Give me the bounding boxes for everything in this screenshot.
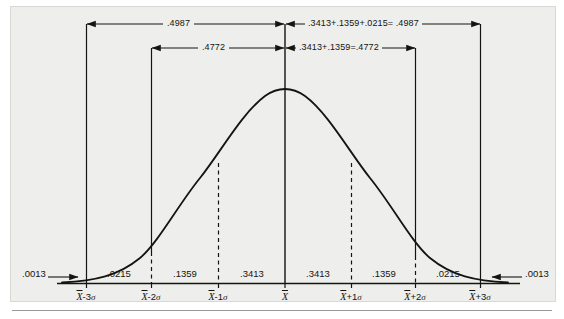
sigma-glyph: σ (91, 292, 95, 302)
axis-label-minus3sigma: X-3σ (76, 291, 95, 302)
dim-label-right-inner: .3413+.1359=.4772 (296, 42, 382, 52)
offset-text: +1 (346, 291, 357, 302)
area-label-far-right: .0013 (525, 268, 549, 279)
xbar-glyph: X (141, 291, 147, 302)
axis-label-minus2sigma: X-2σ (141, 291, 160, 302)
area-label-minus1-mean: .3413 (240, 268, 264, 279)
dim-label-left-outer: .4987 (163, 18, 194, 28)
offset-text: -3 (83, 291, 91, 302)
sigma-glyph: σ (421, 292, 425, 302)
area-label-plus2-plus3: .0215 (436, 268, 460, 279)
xbar-glyph: X (208, 291, 214, 302)
axis-label-plus2sigma: X+2σ (404, 291, 425, 302)
area-label-mean-plus1: .3413 (306, 268, 330, 279)
area-label-far-left: .0013 (22, 268, 46, 279)
axis-label-plus3sigma: X+3σ (469, 291, 490, 302)
dim-label-right-outer: .3413+.1359+.0215= .4987 (305, 18, 422, 28)
sigma-glyph: σ (156, 292, 160, 302)
xbar-glyph: X (469, 291, 475, 302)
axis-label-mean: X (282, 291, 288, 302)
sigma-glyph: σ (223, 292, 227, 302)
sigma-glyph: σ (486, 292, 490, 302)
axis-label-plus1sigma: X+1σ (340, 291, 361, 302)
area-label-plus1-plus2: .1359 (372, 268, 396, 279)
normal-distribution-figure: .4987 .3413+.1359+.0215= .4987 .4772 .34… (0, 0, 564, 319)
area-label-minus2-minus1: .1359 (173, 268, 197, 279)
xbar-glyph: X (282, 291, 288, 302)
offset-text: -2 (148, 291, 156, 302)
distribution-plot (0, 0, 564, 319)
xbar-glyph: X (76, 291, 82, 302)
area-label-minus3-minus2: .0215 (107, 268, 131, 279)
offset-text: +3 (475, 291, 486, 302)
xbar-glyph: X (340, 291, 346, 302)
sigma-glyph: σ (357, 292, 361, 302)
xbar-glyph: X (404, 291, 410, 302)
offset-text: +2 (410, 291, 421, 302)
dim-label-left-inner: .4772 (198, 42, 229, 52)
axis-label-minus1sigma: X-1σ (208, 291, 227, 302)
offset-text: -1 (215, 291, 223, 302)
bottom-divider (12, 310, 552, 311)
